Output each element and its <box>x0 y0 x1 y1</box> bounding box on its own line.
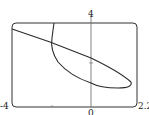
curve-loop <box>52 23 132 88</box>
x-max-label: 2.2 <box>138 102 149 111</box>
y-max-label: 4 <box>88 10 94 19</box>
x-min-label: -4 <box>0 102 9 111</box>
plot-area <box>0 0 149 115</box>
x-origin-label: 0 <box>88 109 94 115</box>
